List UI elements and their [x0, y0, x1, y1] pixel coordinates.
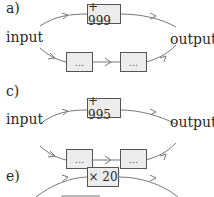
bottom-box-1-a: ... [66, 52, 93, 72]
bottom-box-2-c: ... [120, 149, 147, 169]
part-label-a: a) [6, 1, 20, 15]
input-label-a: input [6, 30, 43, 44]
part-label-e: e) [6, 169, 20, 183]
output-label-a: output [170, 32, 214, 46]
bottom-box-1-c: ... [66, 149, 93, 169]
top-operation-box-e: × 20 [87, 167, 119, 187]
top-operation-box-c: + 995 [87, 98, 121, 118]
input-label-c: input [6, 112, 43, 126]
bottom-box-2-a: ... [120, 52, 147, 72]
top-operation-box-a: + 999 [87, 4, 121, 24]
output-label-c: output [170, 115, 214, 129]
part-label-c: c) [6, 84, 19, 98]
